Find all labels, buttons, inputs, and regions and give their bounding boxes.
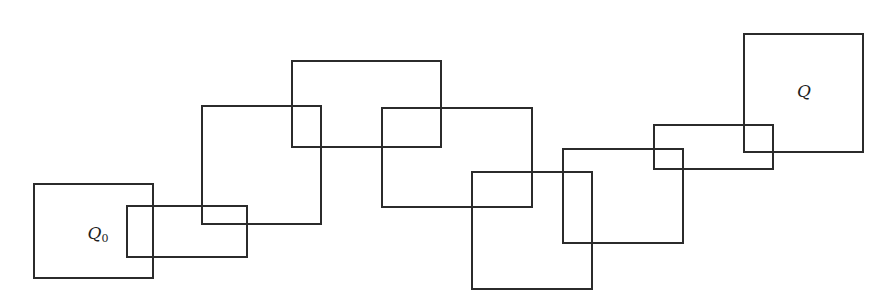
label-q0: Q0: [88, 223, 109, 245]
label-q: Q: [797, 81, 811, 101]
label-subscript: 0: [101, 232, 108, 245]
label-text: Q: [88, 223, 102, 243]
label-text: Q: [797, 81, 811, 101]
